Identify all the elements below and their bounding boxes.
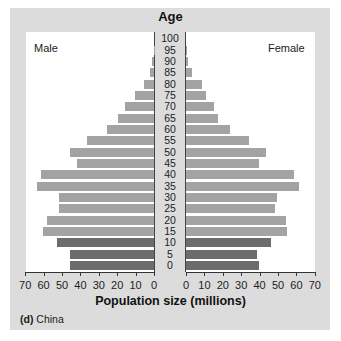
female-bar-age-90 [186, 57, 188, 66]
female-bar-age-0 [186, 261, 259, 270]
tick-mark [186, 272, 187, 276]
x-axis-label: Population size (millions) [0, 294, 341, 308]
female-tick-label: 70 [305, 279, 325, 291]
male-tick-label: 20 [107, 279, 127, 291]
caption-text: China [36, 313, 63, 325]
female-tick-label: 30 [231, 279, 251, 291]
age-label-55: 55 [154, 135, 186, 146]
female-bar-age-95 [186, 46, 187, 55]
male-tick-label: 70 [15, 279, 35, 291]
female-bar-age-10 [186, 238, 271, 247]
female-bar-age-85 [186, 68, 192, 77]
tick-mark [25, 272, 26, 276]
age-label-95: 95 [154, 45, 186, 56]
tick-mark [154, 272, 155, 276]
male-tick-label: 50 [52, 279, 72, 291]
age-label-30: 30 [154, 192, 186, 203]
figure-caption: (d) China [20, 313, 64, 325]
male-bar-age-25 [59, 204, 154, 213]
tick-mark [117, 272, 118, 276]
tick-mark [99, 272, 100, 276]
male-bar-age-75 [135, 91, 154, 100]
female-bar-age-80 [186, 80, 202, 89]
female-bar-age-70 [186, 102, 214, 111]
age-label-100: 100 [154, 33, 186, 44]
female-bar-age-25 [186, 204, 275, 213]
male-bar-age-35 [37, 182, 154, 191]
female-tick-label: 60 [286, 279, 306, 291]
tick-mark [315, 272, 316, 276]
female-tick-label: 10 [194, 279, 214, 291]
tick-mark [44, 272, 45, 276]
female-label: Female [268, 42, 305, 54]
female-bar-age-60 [186, 125, 230, 134]
tick-mark [136, 272, 137, 276]
male-bar-age-30 [59, 193, 154, 202]
tick-mark [62, 272, 63, 276]
tick-mark [296, 272, 297, 276]
female-bar-age-50 [186, 148, 266, 157]
caption-label: (d) [20, 313, 33, 325]
female-tick-label: 0 [176, 279, 196, 291]
age-label-85: 85 [154, 67, 186, 78]
age-label-75: 75 [154, 90, 186, 101]
age-label-10: 10 [154, 237, 186, 248]
male-tick-label: 10 [126, 279, 146, 291]
tick-mark [278, 272, 279, 276]
female-bar-age-15 [186, 227, 287, 236]
male-tick-label: 40 [70, 279, 90, 291]
tick-mark [223, 272, 224, 276]
male-bar-age-20 [47, 216, 154, 225]
male-bar-age-0 [70, 261, 154, 270]
female-bar-age-65 [186, 114, 218, 123]
male-bar-age-60 [107, 125, 154, 134]
female-bar-age-40 [186, 170, 294, 179]
age-label-80: 80 [154, 79, 186, 90]
age-label-70: 70 [154, 101, 186, 112]
age-label-5: 5 [154, 249, 186, 260]
tick-mark [80, 272, 81, 276]
male-bar-age-45 [77, 159, 154, 168]
male-tick-label: 0 [144, 279, 164, 291]
age-label-50: 50 [154, 147, 186, 158]
age-label-90: 90 [154, 56, 186, 67]
male-bar-age-40 [41, 170, 154, 179]
female-bar-age-20 [186, 216, 286, 225]
age-label-25: 25 [154, 203, 186, 214]
age-label-20: 20 [154, 215, 186, 226]
female-bar-age-45 [186, 159, 259, 168]
age-label-0: 0 [154, 260, 186, 271]
tick-mark [204, 272, 205, 276]
male-bar-age-15 [43, 227, 154, 236]
female-bar-age-55 [186, 136, 249, 145]
female-tick-label: 20 [213, 279, 233, 291]
age-label-40: 40 [154, 169, 186, 180]
age-label-65: 65 [154, 113, 186, 124]
age-label-60: 60 [154, 124, 186, 135]
chart-title: Age [0, 9, 341, 24]
tick-mark [241, 272, 242, 276]
tick-mark [260, 272, 261, 276]
male-label: Male [34, 42, 58, 54]
male-bar-age-10 [57, 238, 154, 247]
male-bar-age-55 [87, 136, 154, 145]
age-label-45: 45 [154, 158, 186, 169]
male-tick-label: 30 [89, 279, 109, 291]
female-bar-age-75 [186, 91, 206, 100]
male-tick-label: 60 [34, 279, 54, 291]
age-label-15: 15 [154, 226, 186, 237]
female-bar-age-30 [186, 193, 277, 202]
male-bar-age-5 [70, 250, 154, 259]
female-bar-age-5 [186, 250, 257, 259]
age-label-35: 35 [154, 181, 186, 192]
female-tick-label: 50 [268, 279, 288, 291]
male-bar-age-65 [118, 114, 154, 123]
female-bar-age-35 [186, 182, 299, 191]
male-bar-age-80 [144, 80, 154, 89]
male-bar-age-50 [70, 148, 154, 157]
male-bar-age-70 [125, 102, 154, 111]
female-tick-label: 40 [250, 279, 270, 291]
